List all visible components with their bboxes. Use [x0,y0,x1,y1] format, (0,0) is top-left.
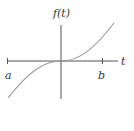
x-axis-label: t [121,55,126,68]
y-axis-label: f(t) [52,7,70,20]
tick-label-a: a [5,69,12,82]
function-plot: f(t) t a b [0,0,134,131]
tick-label-b: b [98,69,105,82]
